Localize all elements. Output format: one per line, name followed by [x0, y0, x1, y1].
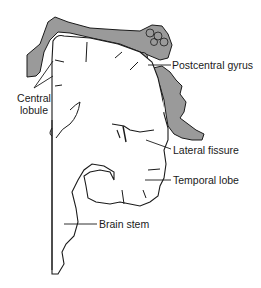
label-temporal-lobe: Temporal lobe	[173, 174, 239, 186]
label-lateral-fissure: Lateral fissure	[173, 144, 239, 156]
label-brain-stem: Brain stem	[99, 218, 149, 230]
label-central-lobule: Central lobule	[14, 92, 54, 116]
label-postcentral-gyrus: Postcentral gyrus	[172, 59, 253, 71]
label-central-lobule-line1: Central	[14, 92, 54, 104]
brain-outline	[52, 36, 168, 274]
label-central-lobule-line2: lobule	[14, 104, 54, 116]
leader-central-lobule-2	[34, 76, 53, 88]
